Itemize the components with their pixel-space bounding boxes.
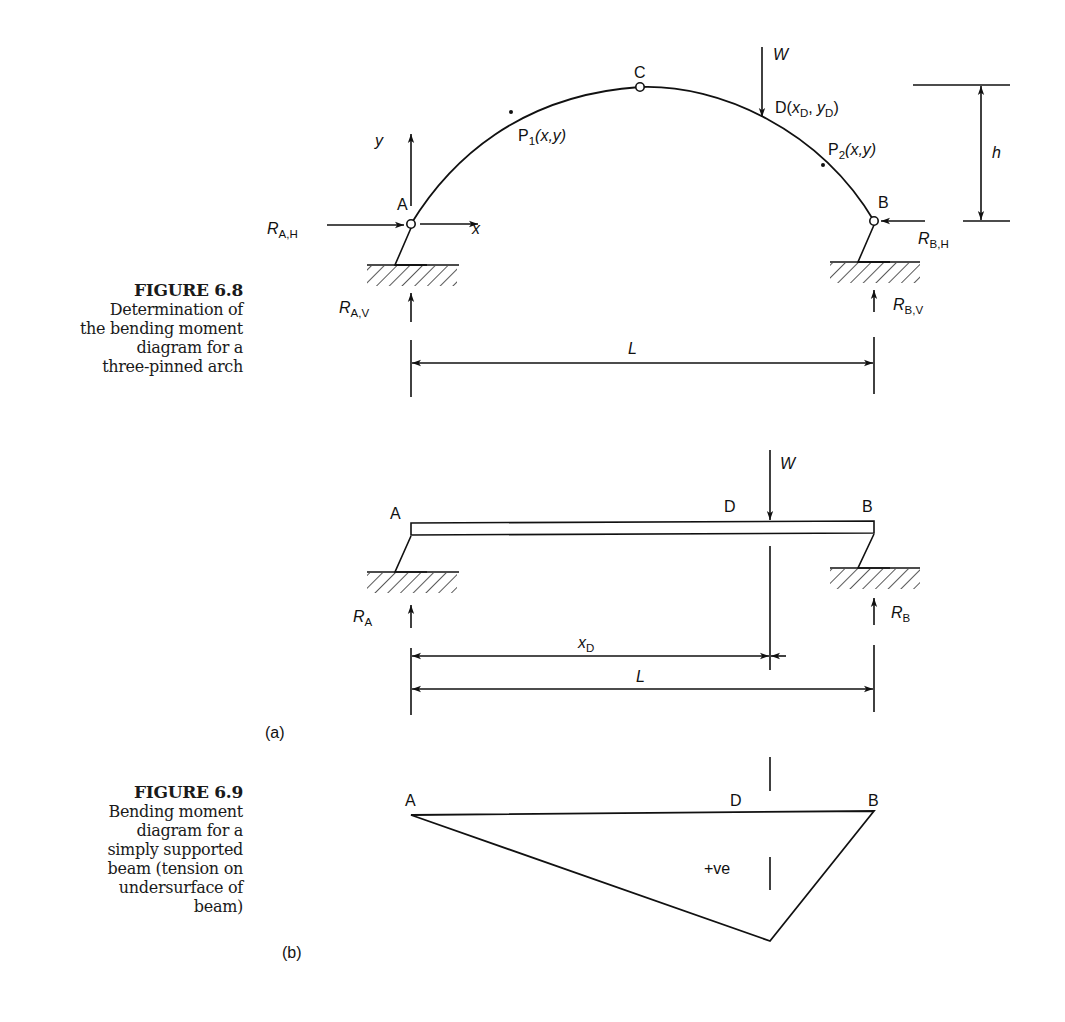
label-reaction-a: RA bbox=[353, 608, 373, 628]
beam bbox=[411, 521, 874, 535]
label-positive-sign: +ve bbox=[704, 860, 730, 877]
support-b-icon bbox=[830, 534, 920, 589]
label-a: A bbox=[397, 196, 408, 213]
label-reaction-bh: RB,H bbox=[918, 230, 949, 250]
bmd-labels: A D B +ve (b) bbox=[282, 792, 879, 961]
label-p2: P2(x,y) bbox=[828, 141, 876, 161]
label-xd: xD bbox=[577, 634, 594, 654]
label-l-beam: L bbox=[636, 668, 645, 685]
arch-labels: A C B W D(xD, yD) P1(x,y) P2(x,y) y x h … bbox=[267, 46, 1001, 357]
label-reaction-av: RA,V bbox=[339, 299, 369, 319]
label-d: D(xD, yD) bbox=[775, 99, 839, 119]
point-p1-icon bbox=[509, 110, 513, 114]
arch-figure bbox=[327, 47, 1010, 397]
label-b: B bbox=[862, 498, 873, 515]
label-a: A bbox=[405, 792, 416, 809]
label-reaction-ah: RA,H bbox=[267, 220, 298, 240]
beam-labels: A D B W RA RB xD L (a) bbox=[265, 455, 911, 741]
pin-b-icon bbox=[870, 217, 878, 225]
pin-c-icon bbox=[636, 83, 644, 91]
label-reaction-b: RB bbox=[891, 604, 911, 624]
support-b-icon bbox=[830, 225, 920, 283]
bmd-triangle bbox=[411, 811, 874, 941]
label-a: A bbox=[390, 505, 401, 522]
support-a-icon bbox=[367, 536, 459, 593]
label-w: W bbox=[780, 455, 797, 472]
xd-dimension bbox=[411, 648, 786, 715]
label-d: D bbox=[724, 498, 736, 515]
diagram-canvas: A C B W D(xD, yD) P1(x,y) P2(x,y) y x h … bbox=[0, 0, 1065, 1022]
pin-a-icon bbox=[407, 220, 415, 228]
support-a-icon bbox=[367, 228, 459, 286]
label-reaction-bv: RB,V bbox=[893, 296, 923, 316]
part-b-tag: (b) bbox=[282, 944, 302, 961]
label-b: B bbox=[878, 194, 889, 211]
part-a-tag: (a) bbox=[265, 724, 285, 741]
label-b: B bbox=[868, 792, 879, 809]
label-y-axis: y bbox=[374, 132, 384, 149]
label-l-arch: L bbox=[628, 340, 637, 357]
label-d: D bbox=[730, 792, 742, 809]
label-p1: P1(x,y) bbox=[518, 127, 566, 147]
point-p2-icon bbox=[821, 163, 825, 167]
label-h: h bbox=[992, 144, 1001, 161]
bending-moment-diagram bbox=[411, 757, 874, 941]
label-x-axis: x bbox=[471, 220, 481, 237]
label-w: W bbox=[773, 46, 790, 63]
label-c: C bbox=[634, 64, 646, 81]
span-dimension-arch bbox=[411, 337, 874, 397]
